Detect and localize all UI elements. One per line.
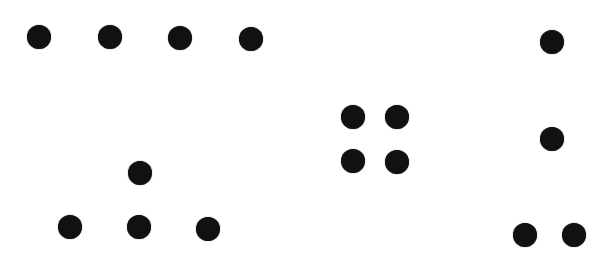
dot xyxy=(341,105,365,129)
dot xyxy=(540,30,564,54)
dot xyxy=(128,161,152,185)
dot-canvas xyxy=(0,0,606,266)
dot xyxy=(513,223,537,247)
dot xyxy=(385,105,409,129)
dot xyxy=(562,223,586,247)
dot xyxy=(58,215,82,239)
dot xyxy=(239,27,263,51)
dot xyxy=(385,150,409,174)
dot xyxy=(196,217,220,241)
dot xyxy=(341,149,365,173)
dot xyxy=(168,26,192,50)
dot xyxy=(27,25,51,49)
dot xyxy=(540,127,564,151)
dot xyxy=(127,215,151,239)
dot xyxy=(98,25,122,49)
